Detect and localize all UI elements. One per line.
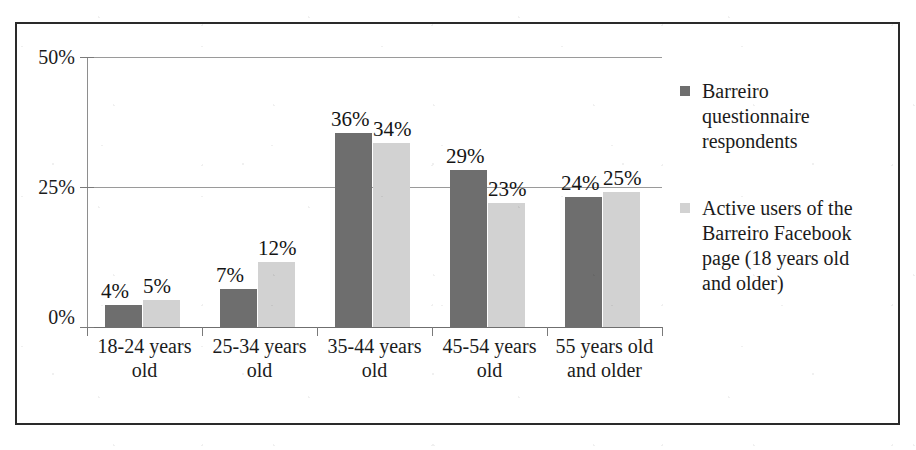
chart-legend: Barreiro questionnaire respondents Activ… [680,79,890,338]
x-axis-category-label-line: old [202,358,317,382]
bar-series-1-2[interactable] [373,143,410,327]
x-axis-category-label-line: 55 years old [547,334,662,358]
y-axis-line [87,57,88,327]
legend-label-line: questionnaire [702,104,890,129]
x-axis-line [87,327,662,328]
chart-frame: 50% 25% 0% 4%5%7%12%36%34%29%23%24%25% 1… [15,22,900,425]
x-axis-category-label-3: 45-54 yearsold [432,334,547,382]
bar-value-label-series-1-0: 5% [143,276,171,297]
y-axis-tick-label-0: 0% [48,307,75,327]
x-axis-labels: 18-24 yearsold25-34 yearsold35-44 yearso… [87,334,662,394]
y-axis-tick-label-50: 50% [38,47,75,67]
x-axis-category-label-2: 35-44 yearsold [317,334,432,382]
bar-series-0-4[interactable] [565,197,602,327]
bar-value-label-series-1-3: 23% [488,179,527,200]
bar-series-1-4[interactable] [603,192,640,327]
legend-label-line: respondents [702,129,890,154]
legend-label-line: Active users of the [702,196,890,221]
y-axis-tick-label-25: 25% [38,177,75,197]
bar-group: 4%5% [105,57,180,327]
x-axis-category-label-line: 45-54 years [432,334,547,358]
bar-series-1-3[interactable] [488,203,525,327]
legend-label-series-1: Active users of the Barreiro Facebook pa… [702,196,890,296]
legend-label-series-0: Barreiro questionnaire respondents [702,79,890,154]
x-axis-category-label-4: 55 years oldand older [547,334,662,382]
y-axis-tick-50 [80,57,94,58]
bar-value-label-series-1-1: 12% [258,238,297,259]
bar-group: 7%12% [220,57,295,327]
bar-value-label-series-0-0: 4% [101,281,129,302]
bar-series-1-0[interactable] [143,300,180,327]
bar-series-1-1[interactable] [258,262,295,327]
bar-group: 24%25% [565,57,640,327]
x-axis-category-label-line: old [317,358,432,382]
bar-value-label-series-0-1: 7% [216,265,244,286]
bar-series-0-2[interactable] [335,133,372,327]
bar-value-label-series-1-4: 25% [603,168,642,189]
legend-swatch-icon-series-0 [680,86,690,96]
legend-label-line: Barreiro Facebook [702,221,890,246]
x-axis-category-label-line: old [87,358,202,382]
bar-group: 29%23% [450,57,525,327]
bar-series-0-0[interactable] [105,305,142,327]
x-axis-tick [662,327,663,336]
bar-value-label-series-0-3: 29% [446,146,485,167]
legend-label-line: page (18 years old [702,246,890,271]
bar-series-0-3[interactable] [450,170,487,327]
legend-label-line: and older) [702,271,890,296]
y-axis-labels: 50% 25% 0% [17,24,87,423]
plot-area: 4%5%7%12%36%34%29%23%24%25% [87,57,662,327]
x-axis-category-label-0: 18-24 yearsold [87,334,202,382]
x-axis-category-label-line: 35-44 years [317,334,432,358]
x-axis-category-label-line: and older [547,358,662,382]
y-axis-tick-25 [80,187,94,188]
legend-label-line: Barreiro [702,79,890,104]
x-axis-category-label-line: 18-24 years [87,334,202,358]
x-axis-category-label-1: 25-34 yearsold [202,334,317,382]
bar-value-label-series-0-4: 24% [561,173,600,194]
bar-series-0-1[interactable] [220,289,257,327]
bar-group: 36%34% [335,57,410,327]
legend-entry-barreiro-questionnaire[interactable]: Barreiro questionnaire respondents [680,79,890,154]
legend-entry-active-users[interactable]: Active users of the Barreiro Facebook pa… [680,196,890,296]
bar-value-label-series-1-2: 34% [373,119,412,140]
bar-value-label-series-0-2: 36% [331,109,370,130]
legend-swatch-icon-series-1 [680,203,690,213]
x-axis-category-label-line: 25-34 years [202,334,317,358]
x-axis-category-label-line: old [432,358,547,382]
